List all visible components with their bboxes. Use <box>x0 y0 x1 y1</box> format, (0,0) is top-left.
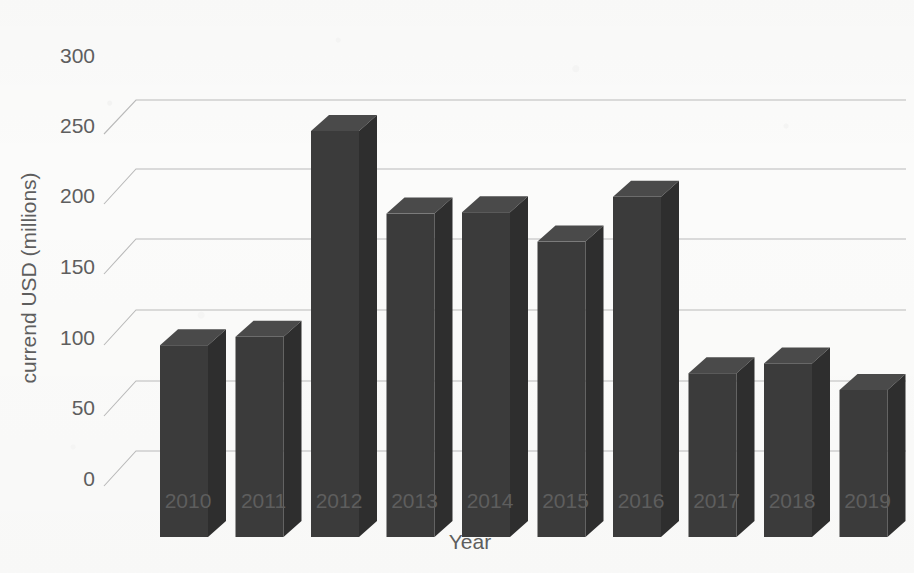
y-axis-tick-labels: 300 250 200 150 100 50 0 <box>60 44 95 490</box>
bar-2016[interactable] <box>613 181 679 537</box>
bar-chart-plot: 300 250 200 150 100 50 0 201020112012201… <box>0 0 914 573</box>
x-tick-label-2018: 2018 <box>769 489 816 512</box>
x-tick-label-2017: 2017 <box>693 489 740 512</box>
x-tick-label-2012: 2012 <box>316 489 363 512</box>
x-tick-label-2013: 2013 <box>391 489 438 512</box>
bar-2012[interactable] <box>311 115 377 537</box>
y-tick-label-300: 300 <box>60 44 95 67</box>
bar-side-face <box>888 374 906 537</box>
bar-side-face <box>661 181 679 537</box>
y-tick-label-100: 100 <box>60 326 95 349</box>
bar-side-face <box>359 115 377 537</box>
y-tick-label-200: 200 <box>60 184 95 207</box>
bar-front-face <box>689 373 737 537</box>
x-tick-label-2014: 2014 <box>467 489 514 512</box>
y-tick-label-250: 250 <box>60 114 95 137</box>
y-tick-label-0: 0 <box>83 467 95 490</box>
gridline-300 <box>104 100 906 134</box>
x-tick-label-2016: 2016 <box>618 489 665 512</box>
bar-side-face <box>435 198 453 537</box>
bar-2019[interactable] <box>840 374 906 537</box>
chart-container: 300 250 200 150 100 50 0 201020112012201… <box>0 0 914 573</box>
bar-side-face <box>284 321 302 537</box>
bar-front-face <box>840 390 888 537</box>
y-tick-label-150: 150 <box>60 255 95 278</box>
y-axis-title: currend USD (millions) <box>17 172 40 383</box>
x-tick-label-2010: 2010 <box>165 489 212 512</box>
bar-side-face <box>510 196 528 537</box>
x-tick-label-2011: 2011 <box>241 489 286 512</box>
y-tick-label-50: 50 <box>72 396 95 419</box>
bar-2013[interactable] <box>387 198 453 537</box>
bar-front-face <box>613 197 661 537</box>
bar-front-face <box>311 131 359 537</box>
bar-2014[interactable] <box>462 196 528 537</box>
x-tick-label-2015: 2015 <box>542 489 589 512</box>
x-axis-title: Year <box>449 530 491 553</box>
x-tick-label-2019: 2019 <box>844 489 891 512</box>
bar-series-group <box>160 115 906 537</box>
